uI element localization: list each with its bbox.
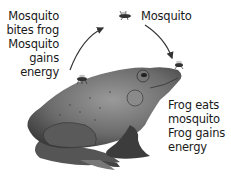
mosquito-icon [175,61,183,69]
frog-icon [28,67,182,170]
diagram-canvas [0,0,231,179]
arrow-to-flying-mosquito [70,28,103,70]
arrow-to-frog-mouth [145,25,172,58]
mosquito-icon [119,11,131,20]
